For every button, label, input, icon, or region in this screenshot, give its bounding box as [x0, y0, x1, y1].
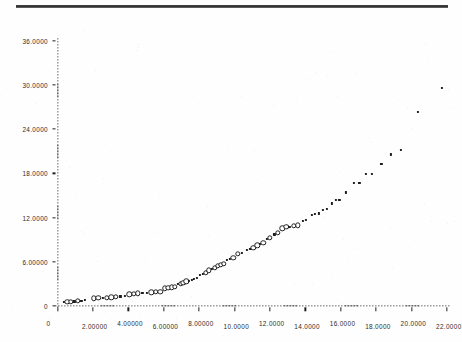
- x-axis-dot: [131, 305, 132, 306]
- scan-grain: [264, 325, 265, 326]
- x-axis-dot: [64, 305, 65, 306]
- x-axis-dot: [61, 305, 62, 306]
- scan-grain: [293, 246, 294, 247]
- scan-grain: [203, 257, 204, 258]
- scan-grain: [362, 31, 363, 32]
- data-point: [295, 223, 300, 228]
- scan-grain: [327, 75, 328, 76]
- scan-grain: [113, 338, 114, 339]
- scan-grain: [406, 93, 407, 94]
- y-axis-dot: [57, 154, 58, 155]
- x-axis-dot: [399, 305, 400, 306]
- scan-grain: [279, 180, 280, 181]
- scan-grain: [42, 271, 43, 272]
- y-axis-dot: [57, 166, 58, 167]
- x-axis-dot: [171, 305, 172, 306]
- x-axis-dot: [409, 305, 410, 306]
- y-axis-dot: [57, 196, 58, 197]
- x-axis-dot: [299, 305, 300, 306]
- scan-grain: [73, 110, 74, 111]
- scan-grain: [256, 180, 257, 181]
- x-axis-dot: [94, 305, 95, 306]
- y-axis-dot: [57, 123, 58, 124]
- x-axis-dot: [436, 305, 437, 306]
- scan-grain: [174, 22, 175, 23]
- scan-grain: [35, 103, 36, 104]
- scan-grain: [264, 102, 265, 103]
- x-axis-dot: [113, 305, 114, 306]
- x-axis-dot: [104, 305, 105, 306]
- scan-grain: [170, 327, 171, 328]
- scan-grain: [456, 118, 457, 119]
- x-axis-dot: [198, 305, 199, 306]
- data-point: [310, 214, 312, 216]
- scan-grain: [261, 313, 262, 314]
- y-axis-dot: [57, 236, 58, 237]
- data-point: [226, 259, 228, 261]
- y-axis-dot: [57, 300, 58, 301]
- scan-grain: [75, 198, 76, 199]
- y-axis-tick-label: 30.0000: [4, 81, 48, 88]
- y-axis-dot: [57, 145, 58, 146]
- scan-grain: [84, 233, 85, 234]
- x-axis-tick-label: 12.0000: [259, 320, 285, 327]
- scan-grain: [331, 310, 332, 311]
- scan-grain: [317, 65, 318, 66]
- scan-grain: [439, 96, 440, 97]
- scan-grain: [234, 240, 235, 241]
- y-axis-dot: [57, 239, 58, 240]
- scan-grain: [309, 79, 310, 80]
- scan-grain: [167, 74, 168, 75]
- scan-grain: [398, 100, 399, 101]
- y-axis-dot: [57, 135, 58, 136]
- scan-grain: [137, 166, 138, 167]
- data-point: [124, 295, 126, 297]
- x-axis-dot: [98, 305, 99, 306]
- scan-grain: [171, 34, 172, 35]
- scan-grain: [349, 82, 350, 83]
- x-axis-dot: [433, 305, 434, 306]
- x-axis-dot: [186, 305, 187, 306]
- scan-grain: [110, 234, 111, 235]
- x-axis-dot: [390, 305, 391, 306]
- scan-grain: [330, 246, 331, 247]
- y-axis-tick: [53, 128, 56, 129]
- x-axis-dot: [91, 305, 92, 306]
- data-point: [390, 153, 392, 155]
- x-axis-dot: [85, 305, 86, 306]
- scan-grain: [154, 164, 155, 165]
- x-axis-dot: [360, 305, 361, 306]
- data-point: [380, 163, 382, 165]
- scan-grain: [459, 84, 460, 85]
- scan-grain: [364, 300, 365, 301]
- scan-grain: [206, 239, 207, 240]
- y-axis-dot: [57, 264, 58, 265]
- y-axis-tick: [53, 217, 56, 218]
- data-point: [353, 182, 355, 184]
- data-point: [246, 249, 248, 251]
- scan-grain: [322, 45, 323, 46]
- scan-grain: [342, 303, 343, 304]
- x-axis-dot: [177, 305, 178, 306]
- y-axis-dot: [57, 221, 58, 222]
- data-point: [322, 209, 324, 211]
- scan-grain: [368, 308, 369, 309]
- scan-grain: [425, 292, 426, 293]
- scan-grain: [437, 74, 438, 75]
- y-axis-dot: [57, 126, 58, 127]
- scan-grain: [356, 305, 357, 306]
- scan-grain: [118, 115, 119, 116]
- scan-grain: [208, 236, 209, 237]
- x-axis-tick-label: 16.0000: [330, 320, 356, 327]
- scan-grain: [110, 198, 111, 199]
- scan-grain: [448, 108, 449, 109]
- data-point: [338, 199, 340, 201]
- scan-grain: [132, 301, 133, 302]
- x-axis-dot: [73, 305, 74, 306]
- scan-grain: [9, 114, 10, 115]
- scan-grain: [159, 155, 160, 156]
- x-axis-dot: [403, 305, 404, 306]
- x-axis-dot: [424, 305, 425, 306]
- y-axis-dot: [57, 132, 58, 133]
- x-axis-dot: [332, 305, 333, 306]
